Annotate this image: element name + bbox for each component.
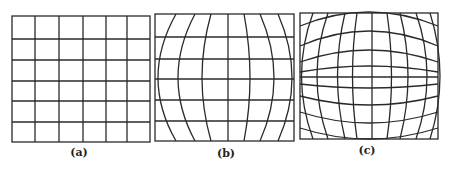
panel-b-grid — [155, 14, 294, 141]
caption-a: (a) — [70, 147, 88, 158]
caption-c: (c) — [358, 145, 375, 156]
panel-a-grid — [12, 16, 150, 142]
distortion-figure — [0, 0, 449, 169]
caption-b: (b) — [217, 148, 235, 159]
panel-c-grid — [300, 12, 440, 139]
